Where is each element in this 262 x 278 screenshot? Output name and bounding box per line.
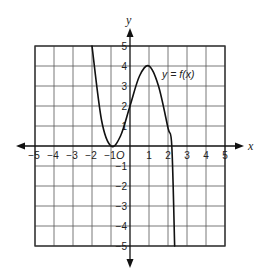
y-tick-label: 4 <box>121 61 127 72</box>
x-tick-label: 4 <box>203 150 209 161</box>
y-axis-down-arrow-icon <box>127 259 134 268</box>
x-tick-label: −3 <box>66 150 78 161</box>
x-tick-label: −4 <box>47 150 59 161</box>
x-tick-labels: −5−4−3−2−112345 <box>28 150 228 161</box>
y-tick-label: 3 <box>121 81 127 92</box>
origin-label: O <box>116 149 125 161</box>
y-tick-label: −2 <box>116 181 128 192</box>
x-tick-label: −1 <box>104 150 116 161</box>
y-axis-label: y <box>125 13 132 27</box>
x-axis-right-arrow-icon <box>235 143 244 150</box>
y-axis-up-arrow-icon <box>127 28 134 37</box>
x-axis-label: x <box>247 139 254 153</box>
y-tick-label: −1 <box>116 161 128 172</box>
function-label: y = f(x) <box>161 68 194 80</box>
x-tick-label: 2 <box>165 150 171 161</box>
y-tick-label: 5 <box>121 41 127 52</box>
function-graph: x y −5−4−3−2−112345 54321−1−2−3−4−5 O y … <box>0 0 262 278</box>
x-tick-label: −2 <box>85 150 97 161</box>
y-tick-label: −5 <box>116 241 128 252</box>
x-axis-left-arrow-icon <box>16 143 25 150</box>
y-tick-label: −4 <box>116 221 128 232</box>
y-tick-label: −3 <box>116 201 128 212</box>
x-tick-label: 1 <box>146 150 152 161</box>
x-tick-label: 5 <box>222 150 228 161</box>
x-tick-label: −5 <box>28 150 40 161</box>
y-tick-label: 2 <box>121 101 127 112</box>
x-tick-label: 3 <box>184 150 190 161</box>
